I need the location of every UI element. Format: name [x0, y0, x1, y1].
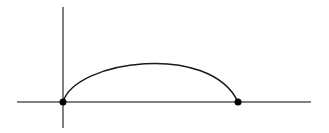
diagram-canvas: [0, 0, 329, 133]
start-point: [60, 99, 67, 106]
arc-curve: [63, 63, 238, 102]
end-point: [235, 99, 242, 106]
